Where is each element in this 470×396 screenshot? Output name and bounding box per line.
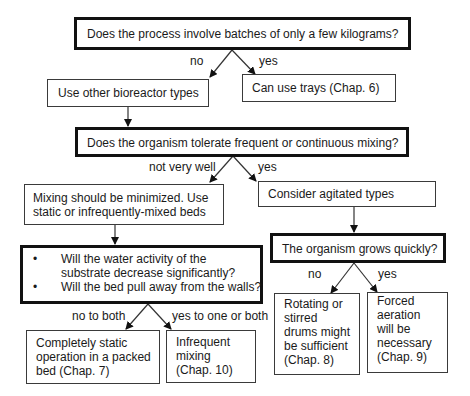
outcome-trays: Can use trays (Chap. 6) (242, 74, 396, 102)
outcome-minimize-line-1: Mixing should be minimized. Use (33, 191, 208, 205)
outcome-infrequent-mixing: Infrequent mixing (Chap. 10) (166, 330, 256, 383)
outcome-forced-line-4: necessary (377, 336, 432, 350)
outcome-infrequent-line-1: Infrequent (176, 335, 230, 349)
outcome-rotating-line-4: be sufficient (284, 339, 348, 353)
decision-mixing-tolerance-text: Does the organism tolerate frequent or c… (87, 136, 399, 150)
outcome-packed-bed: Completely static operation in a packed … (26, 330, 160, 384)
edge-label-q4-no: no (308, 267, 321, 281)
edge-label-q4-yes: yes (378, 267, 397, 281)
decision-growth-rate: The organism grows quickly? (270, 233, 446, 263)
decision-growth-rate-text: The organism grows quickly? (282, 242, 437, 256)
outcome-forced-line-5: (Chap. 9) (377, 350, 427, 364)
bullet-water-activity: Will the water activity of the substrate… (23, 252, 251, 280)
outcome-rotating-drums: Rotating or stirred drums might be suffi… (274, 293, 360, 375)
outcome-minimize-mixing: Mixing should be minimized. Use static o… (24, 184, 224, 225)
decision-water-activity: Will the water activity of the substrate… (20, 245, 263, 304)
outcome-infrequent-line-2: mixing (176, 349, 211, 363)
edge-label-q2-yes: yes (258, 160, 277, 174)
outcome-other-types-text: Use other bioreactor types (58, 86, 199, 100)
outcome-forced-line-1: Forced (377, 294, 414, 308)
decision-batch-size-text: Does the process involve batches of only… (87, 27, 399, 41)
outcome-packed-bed-line-1: Completely static (36, 336, 127, 350)
decision-water-activity-bullets: Will the water activity of the substrate… (23, 252, 261, 294)
outcome-infrequent-line-3: (Chap. 10) (176, 363, 233, 377)
edge-label-q1-no: no (190, 54, 203, 68)
decision-batch-size: Does the process involve batches of only… (74, 17, 411, 50)
edge-label-q3-no: no to both (72, 309, 125, 323)
outcome-agitated-types-text: Consider agitated types (268, 187, 394, 201)
outcome-minimize-line-2: static or infrequently-mixed beds (33, 205, 206, 219)
outcome-rotating-line-3: drums might (284, 325, 350, 339)
decision-mixing-tolerance: Does the organism tolerate frequent or c… (75, 127, 409, 157)
outcome-agitated-types: Consider agitated types (258, 181, 436, 207)
outcome-packed-bed-line-3: bed (Chap. 7) (36, 364, 109, 378)
edge-label-q2-no: not very well (149, 160, 216, 174)
outcome-rotating-line-1: Rotating or (284, 297, 343, 311)
edge-label-q1-yes: yes (259, 54, 278, 68)
outcome-forced-line-3: will be (377, 322, 410, 336)
outcome-packed-bed-line-2: operation in a packed (36, 350, 151, 364)
outcome-trays-text: Can use trays (Chap. 6) (252, 81, 379, 95)
bullet-bed-pull: Will the bed pull away from the walls? (23, 280, 261, 294)
edge-label-q3-yes: yes to one or both (172, 309, 268, 323)
outcome-other-types: Use other bioreactor types (47, 79, 209, 107)
outcome-rotating-line-2: stirred (284, 311, 317, 325)
outcome-forced-line-2: aeration (377, 308, 420, 322)
outcome-forced-aeration: Forced aeration will be necessary (Chap.… (367, 292, 448, 373)
outcome-rotating-line-5: (Chap. 8) (284, 353, 334, 367)
